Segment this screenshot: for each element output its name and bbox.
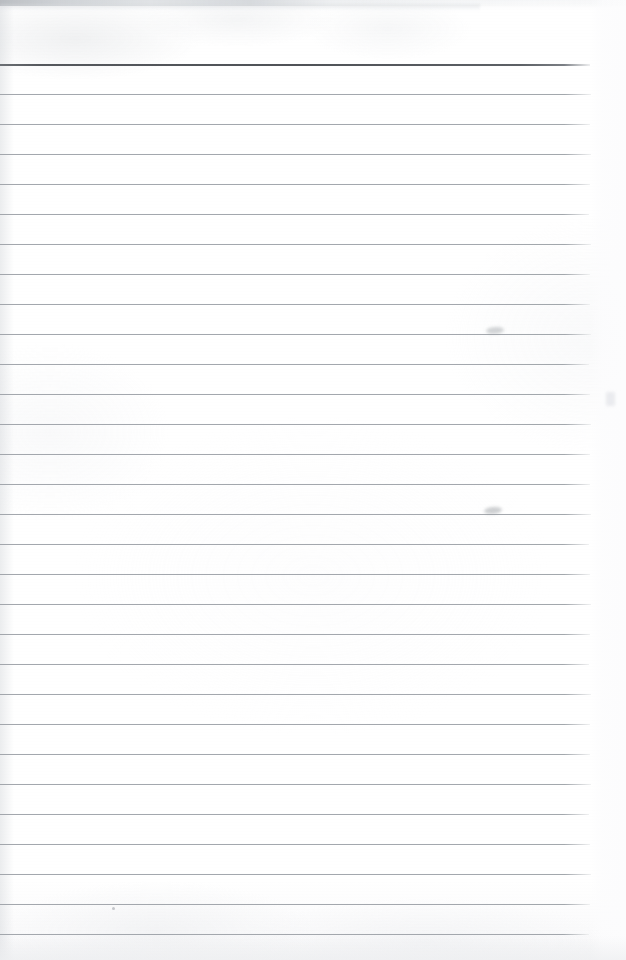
scanned-page xyxy=(0,0,626,960)
writing-area[interactable] xyxy=(0,64,590,934)
ruled-line xyxy=(0,934,589,935)
